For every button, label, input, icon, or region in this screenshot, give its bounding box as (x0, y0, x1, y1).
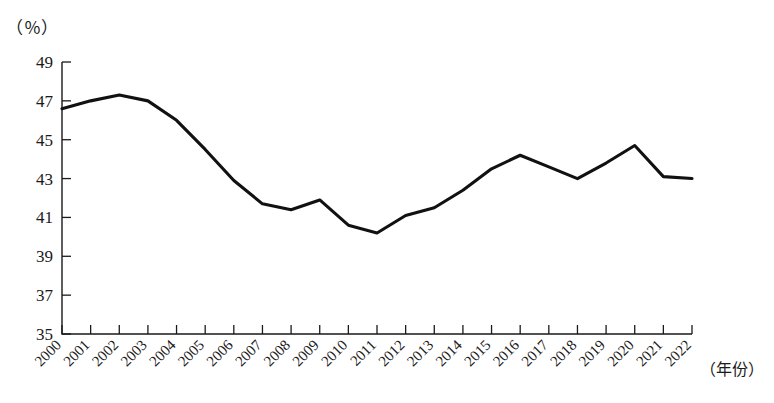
x-axis-tick-label: 2014 (433, 336, 466, 369)
y-axis-tick-label: 45 (36, 131, 53, 150)
y-axis-tick-label: 43 (36, 170, 53, 189)
x-axis-tick-label: 2003 (118, 337, 151, 370)
x-axis-tick-label: 2004 (146, 336, 179, 369)
x-axis-tick-label: 2018 (547, 337, 580, 370)
x-axis-tick-label: 2001 (60, 337, 93, 370)
x-axis-tick-label: 2011 (347, 337, 379, 369)
y-axis-tick-label: 39 (36, 247, 53, 266)
x-axis-tick-label: 2020 (604, 337, 637, 370)
x-axis-tick-label: 2002 (89, 337, 122, 370)
y-axis-tick-label: 49 (36, 53, 53, 72)
chart-plot-area: 3537394143454749 20002001200220032004200… (0, 0, 774, 403)
x-axis-tick-label: 2012 (375, 337, 408, 370)
x-axis-tick-label: 2022 (662, 337, 695, 370)
x-axis-tick-label: 2013 (404, 337, 437, 370)
x-axis-tick-label: 2010 (318, 337, 351, 370)
x-axis-tick-label: 2021 (633, 337, 666, 370)
axis-frame-path (62, 62, 692, 334)
y-axis-tick-label: 41 (36, 208, 53, 227)
x-axis-tick-label: 2017 (518, 336, 551, 369)
line-chart: （％） 3537394143454749 2000200120022003200… (0, 0, 774, 403)
x-axis-tick-label: 2016 (490, 336, 523, 369)
x-axis-tick-label: 2008 (261, 337, 294, 370)
x-axis-tick-label: 2005 (175, 337, 208, 370)
x-axis: 2000200120022003200420052006200720082009… (32, 325, 695, 369)
series-line-path (62, 95, 692, 233)
x-axis-title: （年份） (700, 356, 764, 380)
y-axis: 3537394143454749 (36, 53, 71, 344)
y-axis-tick-label: 47 (36, 92, 54, 111)
x-axis-tick-label: 2019 (576, 337, 609, 370)
x-axis-tick-label: 2006 (203, 336, 236, 369)
x-axis-tick-label: 2015 (461, 337, 494, 370)
x-axis-tick-label: 2009 (289, 337, 322, 370)
y-axis-tick-label: 37 (36, 286, 54, 305)
x-axis-tick-label: 2007 (232, 336, 265, 369)
